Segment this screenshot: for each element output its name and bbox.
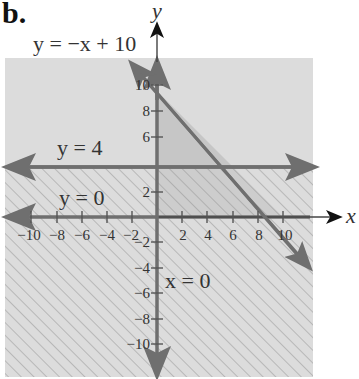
inequality-graph: −10 −8 −6 −4 −2 2 4 6 8 10 10 8 6 2 −2 −… [0, 0, 359, 379]
x-tick-label: 2 [179, 227, 187, 243]
label-y-equals-0: y = 0 [59, 185, 104, 210]
label-y-equals-neg-x-plus-10: y = −x + 10 [33, 31, 136, 56]
x-tick-label: −4 [99, 227, 115, 243]
x-tick-label: −6 [74, 227, 90, 243]
x-axis-label: x [345, 203, 356, 228]
y-tick-label: 2 [143, 184, 151, 200]
y-tick-label: −8 [134, 311, 150, 327]
x-tick-label: −8 [49, 227, 65, 243]
label-y-equals-4: y = 4 [57, 135, 102, 160]
y-tick-label: −4 [134, 260, 150, 276]
hatched-region [5, 167, 313, 377]
x-tick-label: −10 [17, 227, 40, 243]
y-tick-label: −6 [134, 285, 150, 301]
x-tick-label: 10 [278, 227, 293, 243]
x-tick-label: 4 [204, 227, 212, 243]
y-tick-label: −2 [134, 234, 150, 250]
y-tick-label: 8 [143, 103, 151, 119]
x-tick-label: 8 [255, 227, 263, 243]
label-x-equals-0: x = 0 [165, 268, 210, 293]
y-tick-label: −10 [127, 336, 150, 352]
y-axis-label: y [150, 0, 162, 23]
y-tick-label: 10 [135, 77, 150, 93]
x-tick-label: 6 [229, 227, 237, 243]
y-tick-label: 6 [143, 129, 151, 145]
